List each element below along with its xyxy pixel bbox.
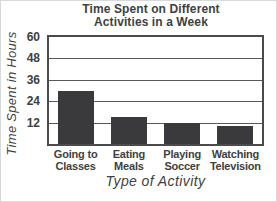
gridline <box>49 58 262 59</box>
y-tick-label: 60 <box>2 30 40 44</box>
bar-chart: Time Spent on Different Activities in a … <box>0 0 277 202</box>
bar-1 <box>111 117 147 144</box>
gridline <box>49 80 262 81</box>
chart-title: Time Spent on Different Activities in a … <box>39 3 263 29</box>
x-axis-title: Type of Activity <box>49 173 262 189</box>
y-tick-label: 48 <box>2 51 40 65</box>
plot-area <box>47 35 264 146</box>
y-tick-label: 12 <box>2 116 40 130</box>
bar-3 <box>217 126 253 144</box>
y-tick-label: 36 <box>2 73 40 87</box>
x-category-labels: Going to ClassesEating MealsPlaying Socc… <box>49 149 262 173</box>
bar-2 <box>164 123 200 144</box>
x-category-label: Watching Television <box>201 149 269 172</box>
y-tick-labels: 1224364860 <box>1 37 43 144</box>
y-tick-label: 24 <box>2 94 40 108</box>
bar-0 <box>58 91 94 145</box>
